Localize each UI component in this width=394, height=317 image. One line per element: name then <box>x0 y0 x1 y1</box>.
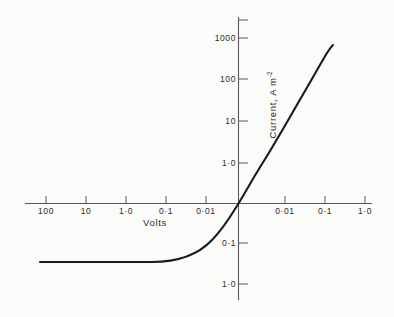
y-axis-ticks-upper <box>238 20 248 163</box>
y-axis-title: Current, A m-2 <box>266 72 278 139</box>
plot-area <box>0 0 394 317</box>
x-tick-label: 0·01 <box>275 206 294 216</box>
y-tick-label: 1000 <box>215 33 236 43</box>
x-tick-label: 100 <box>38 206 54 216</box>
x-tick-label: 1·0 <box>119 206 133 216</box>
y-axis-ticks-lower <box>238 243 248 284</box>
x-tick-label: 0·1 <box>318 206 332 216</box>
y-tick-label: 1·0 <box>222 279 236 289</box>
y-tick-label: 1·0 <box>222 158 236 168</box>
x-axis-ticks-right <box>285 196 365 203</box>
x-tick-label: 10 <box>81 206 92 216</box>
y-tick-label: 100 <box>220 74 236 84</box>
y-tick-label: 0·1 <box>222 238 236 248</box>
y-tick-label: 10 <box>225 116 236 126</box>
x-tick-label: 0·01 <box>196 206 215 216</box>
x-tick-label: 1·0 <box>358 206 372 216</box>
diode-characteristic-curve <box>40 45 333 262</box>
x-axis-ticks-left <box>46 196 206 203</box>
diode-iv-characteristic-figure: 100 10 1·0 0·1 0·01 0·01 0·1 1·0 1000 10… <box>0 0 394 317</box>
y-axis-title-exponent: -2 <box>266 72 273 78</box>
x-axis-title: Volts <box>143 217 167 228</box>
y-axis-title-text: Current, A m <box>267 77 278 138</box>
x-tick-label: 0·1 <box>159 206 173 216</box>
